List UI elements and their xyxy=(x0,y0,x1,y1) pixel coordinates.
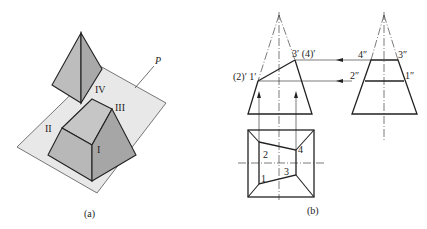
part-ii-label: II xyxy=(45,123,52,134)
front-label-left: (2)′ 1′ xyxy=(233,71,257,83)
top-label-3: 3 xyxy=(284,166,289,177)
front-view xyxy=(248,12,371,200)
top-label-4: 4 xyxy=(298,144,303,155)
plane-leader-line xyxy=(135,66,154,88)
drawing-canvas: P IV III II I (a) xyxy=(0,0,427,229)
figure-a-caption: (a) xyxy=(84,208,95,220)
part-iv-label: IV xyxy=(95,84,106,95)
side-label-4: 4″ xyxy=(358,49,367,60)
part-iii-label: III xyxy=(115,102,125,113)
side-label-1: 1″ xyxy=(405,70,414,81)
plane-p-label: P xyxy=(154,55,161,66)
top-view xyxy=(238,130,324,197)
side-label-3: 3″ xyxy=(398,49,407,60)
part-iv-left-face xyxy=(52,33,81,103)
top-label-2: 2 xyxy=(263,149,268,160)
top-label-1: 1 xyxy=(261,173,266,184)
figure-b-caption: (b) xyxy=(307,205,319,217)
figure-b xyxy=(238,12,417,200)
part-i-label: I xyxy=(97,144,100,155)
figure-b-labels: (2)′ 1′ 3′ (4)′ 4″ 3″ 2″ 1″ 2 4 1 3 (b) xyxy=(233,48,414,217)
side-label-2: 2″ xyxy=(350,70,359,81)
front-label-right: 3′ (4)′ xyxy=(292,48,316,60)
figure-a: P IV III II I (a) xyxy=(17,33,166,220)
